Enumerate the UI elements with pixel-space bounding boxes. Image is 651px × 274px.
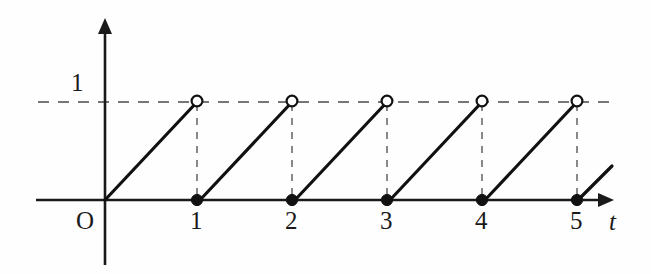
ramp-segment-1 [200, 102, 292, 200]
closed-point-t3 [381, 194, 392, 205]
x-tick-label-3: 3 [380, 208, 393, 233]
open-point-t4 [477, 96, 488, 107]
open-point-t5 [572, 96, 583, 107]
x-tick-label-1: 1 [190, 208, 203, 233]
x-axis-arrowhead [598, 193, 614, 207]
ramp-segment-4 [485, 102, 577, 200]
ramp-segment-3 [390, 102, 482, 200]
y-axis-arrowhead [98, 18, 112, 34]
x-axis-name-label: t [609, 209, 616, 234]
ramp-segment-0 [105, 102, 197, 200]
open-point-t2 [287, 96, 298, 107]
ramp-segment-2 [295, 102, 387, 200]
closed-point-t4 [476, 194, 487, 205]
closed-point-t2 [286, 194, 297, 205]
ramp-segment-5-partial [578, 166, 612, 200]
origin-label: O [76, 208, 94, 233]
x-tick-label-5: 5 [570, 208, 583, 233]
open-point-t3 [382, 96, 393, 107]
y-axis-value-label-1: 1 [71, 70, 84, 95]
x-tick-label-2: 2 [285, 208, 298, 233]
plot-canvas [0, 0, 651, 274]
closed-point-t1 [191, 194, 202, 205]
x-tick-label-4: 4 [475, 208, 488, 233]
closed-point-t5 [571, 194, 582, 205]
sawtooth-wave-figure: O 1 1 2 3 4 5 t [0, 0, 651, 274]
open-point-t1 [192, 96, 203, 107]
